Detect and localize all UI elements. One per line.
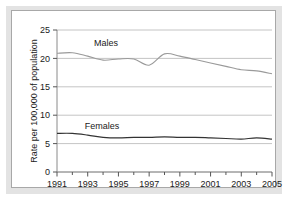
gridlines [57,30,272,172]
x-tick-label: 1999 [170,179,190,189]
y-tick-label: 25 [40,25,50,35]
x-axis-ticks: 19911993199519971999200120032005 [47,172,282,189]
line-chart-svg: 0510152025 19911993199519971999200120032… [0,0,294,207]
series-label-males: Males [94,38,119,48]
x-tick-label: 2001 [201,179,221,189]
y-tick-label: 10 [40,110,50,120]
y-tick-label: 15 [40,82,50,92]
y-axis-ticks: 0510152025 [40,25,57,177]
x-tick-label: 2005 [262,179,282,189]
y-tick-label: 0 [45,167,50,177]
y-tick-label: 20 [40,54,50,64]
x-tick-label: 1991 [47,179,67,189]
y-axis-title: Rate per 100,000 of population [29,39,39,163]
series-line-females [57,133,272,139]
series-line-males [57,53,272,74]
x-tick-label: 1995 [108,179,128,189]
x-tick-label: 2003 [231,179,251,189]
series-label-females: Females [85,121,120,131]
chart-figure: 0510152025 19911993199519971999200120032… [0,0,294,207]
x-tick-label: 1993 [78,179,98,189]
plot-wrapper: 0510152025 19911993199519971999200120032… [0,0,294,207]
x-tick-label: 1997 [139,179,159,189]
y-tick-label: 5 [45,139,50,149]
